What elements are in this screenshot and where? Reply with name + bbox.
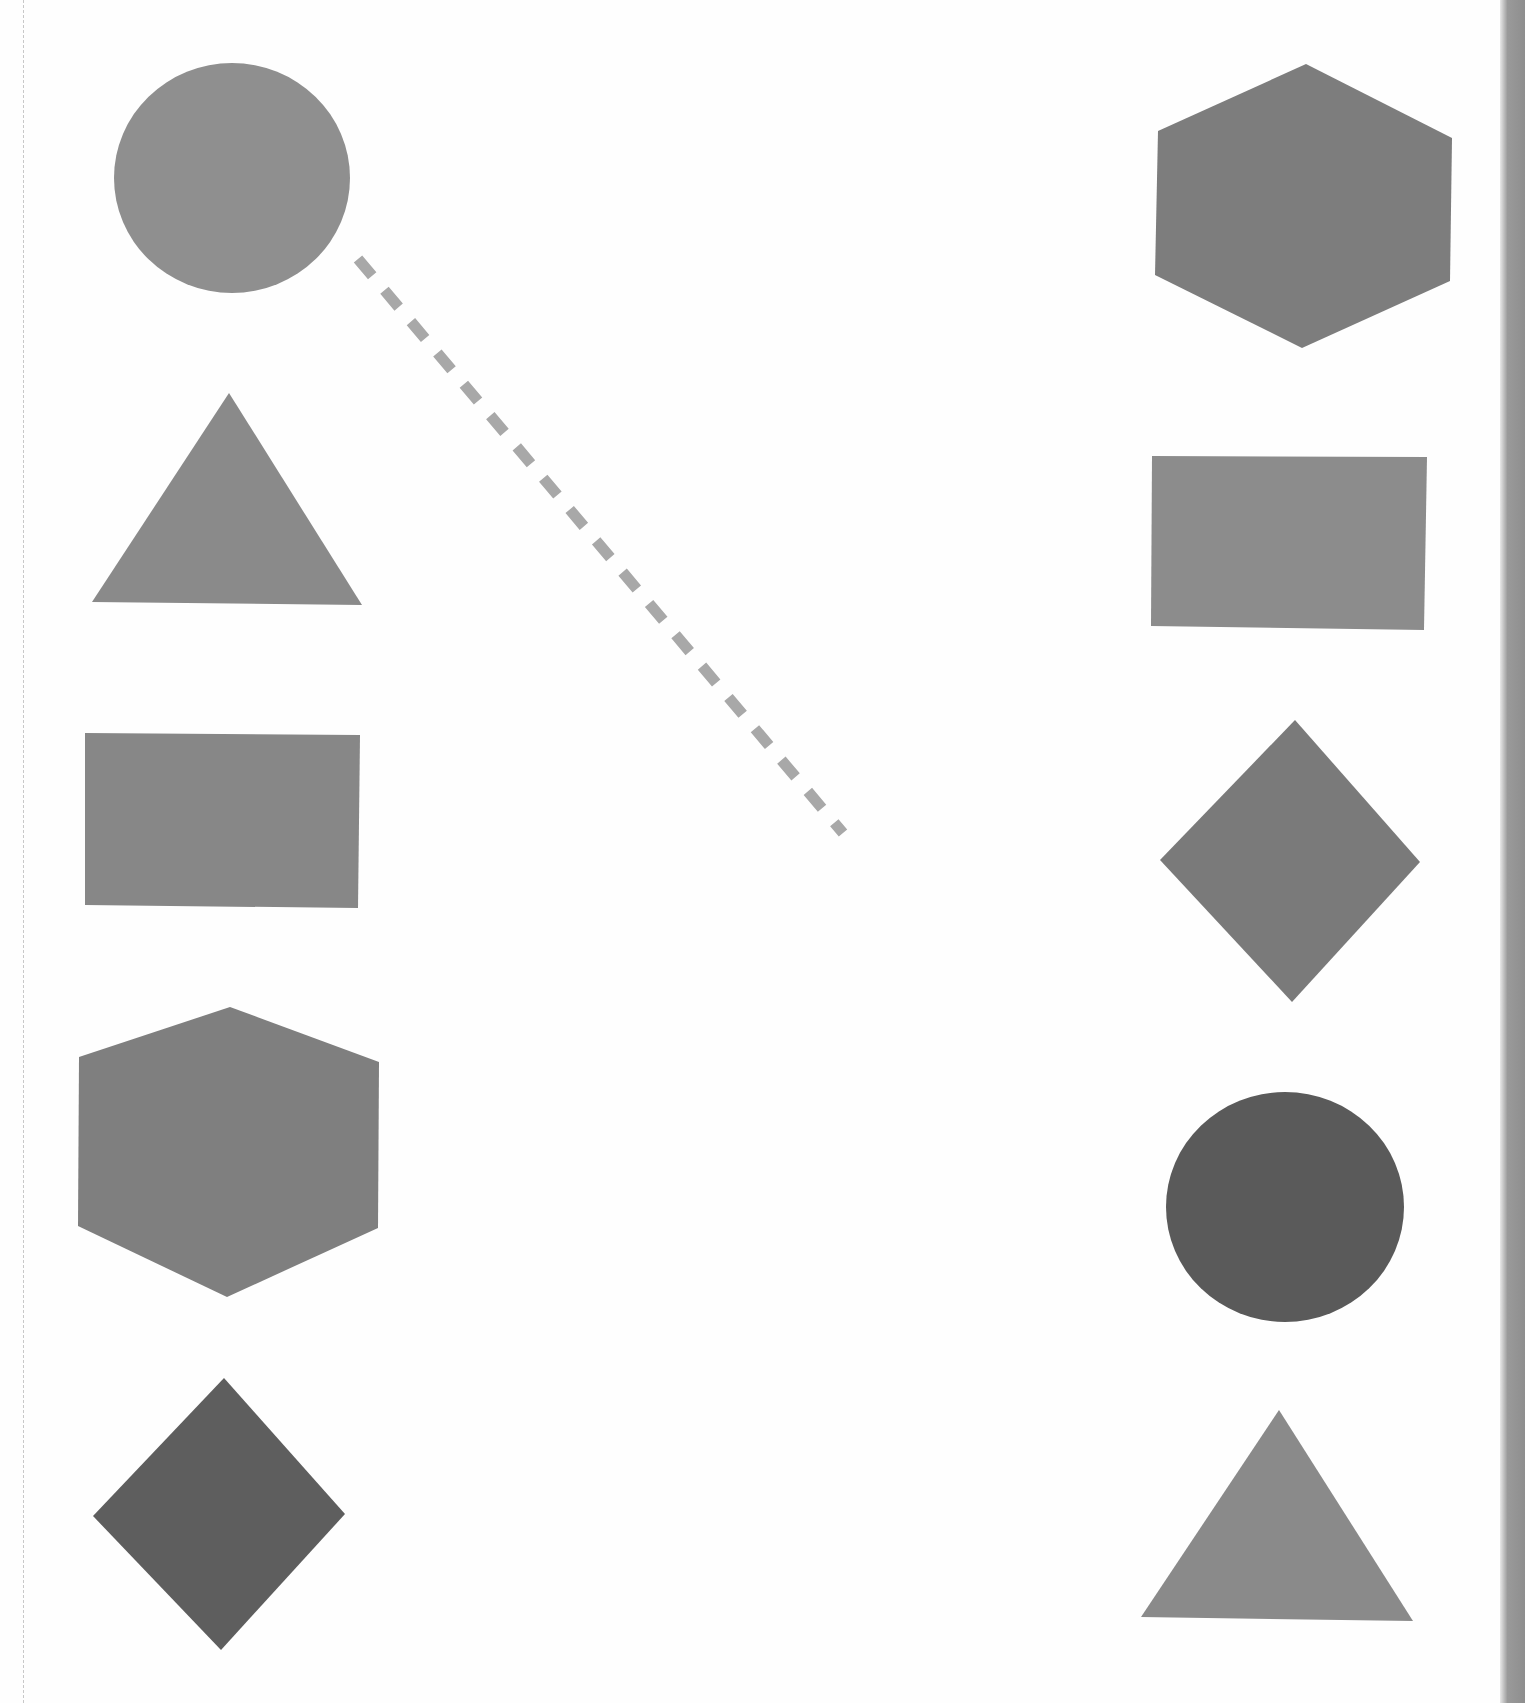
right-hexagon-shape[interactable] bbox=[1155, 64, 1452, 348]
page-edge-shadow bbox=[1500, 0, 1525, 1703]
right-diamond-shape[interactable] bbox=[1160, 720, 1420, 1002]
right-triangle-shape[interactable] bbox=[1141, 1410, 1413, 1621]
left-circle-shape[interactable] bbox=[114, 63, 350, 293]
left-diamond-shape[interactable] bbox=[93, 1378, 345, 1650]
example-dashed-line bbox=[358, 259, 843, 833]
worksheet-canvas bbox=[0, 0, 1525, 1703]
left-triangle-shape[interactable] bbox=[92, 393, 362, 605]
left-hexagon-shape[interactable] bbox=[78, 1007, 379, 1297]
right-rectangle-shape[interactable] bbox=[1151, 456, 1427, 630]
left-column bbox=[78, 63, 379, 1650]
left-rectangle-shape[interactable] bbox=[85, 733, 360, 908]
right-column bbox=[1141, 64, 1452, 1621]
worksheet-page bbox=[0, 0, 1525, 1703]
right-circle-shape[interactable] bbox=[1166, 1092, 1404, 1322]
